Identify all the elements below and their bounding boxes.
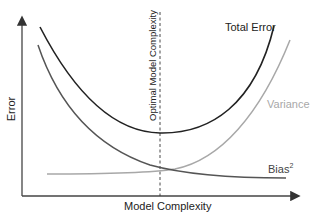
variance-curve [47, 40, 290, 174]
optimal-complexity-label: Optimal Model Complexity [147, 10, 158, 122]
bias-label-superscript: 2 [289, 162, 293, 169]
variance-label: Variance [267, 98, 310, 110]
bias-variance-diagram: Error Model Complexity Optimal Model Com… [0, 0, 312, 217]
bias-label-text: Bias [268, 163, 289, 175]
x-axis-label: Model Complexity [124, 200, 211, 212]
bias-label: Bias2 [268, 162, 293, 175]
bias-curve [38, 45, 286, 178]
y-axis-label: Error [5, 94, 17, 124]
total-error-label: Total Error [225, 21, 276, 33]
